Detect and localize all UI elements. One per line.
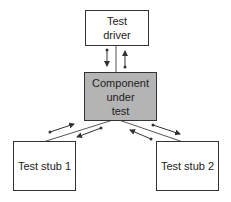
arrow-down-icon <box>106 49 109 67</box>
node-label: driver <box>103 28 131 42</box>
node-label: Test stub 2 <box>161 159 214 173</box>
node-component-under-test: Component under test <box>84 72 157 121</box>
arrow-from-stub2-icon <box>130 130 153 141</box>
arrow-up-icon <box>124 51 127 69</box>
node-label: Test <box>103 14 131 28</box>
node-test-stub-2: Test stub 2 <box>156 141 219 191</box>
node-test-stub-1: Test stub 1 <box>13 141 76 191</box>
arrow-to-component-icon <box>49 124 75 134</box>
node-label: Component <box>92 76 149 90</box>
node-label: Test stub 1 <box>18 159 71 173</box>
node-test-driver: Test driver <box>85 10 149 46</box>
node-label: under <box>92 90 149 104</box>
node-label: test <box>92 104 149 118</box>
arrow-to-stub1-icon <box>77 127 103 138</box>
